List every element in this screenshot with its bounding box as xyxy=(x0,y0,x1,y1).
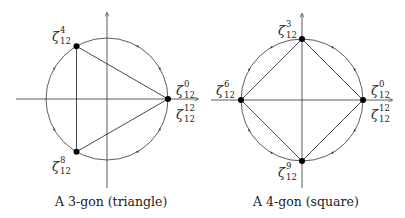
label-zeta-6: ζ612 xyxy=(216,84,223,97)
label-zeta-12: ζ1212 xyxy=(371,108,378,121)
vertex-point xyxy=(299,36,305,42)
label-zeta-8: ζ812 xyxy=(52,160,59,173)
caption-triangle: A 3-gon (triangle) xyxy=(55,194,167,209)
vertex-point xyxy=(74,149,80,155)
zeta-symbol: ζ xyxy=(371,83,378,98)
exponent: 6 xyxy=(224,80,229,89)
exponent: 12 xyxy=(184,104,195,113)
subscript: 12 xyxy=(379,115,390,124)
label-zeta-3: ζ312 xyxy=(278,24,285,37)
label-zeta-0: ζ012 xyxy=(176,84,183,97)
subscript: 12 xyxy=(60,37,71,46)
zeta-symbol: ζ xyxy=(216,83,223,98)
exponent: 0 xyxy=(184,80,189,89)
exponent: 8 xyxy=(60,156,65,165)
subscript: 12 xyxy=(184,115,195,124)
subscript: 12 xyxy=(224,91,235,100)
triangle-diagram xyxy=(16,13,198,188)
vertex-point xyxy=(74,43,80,49)
exponent: 9 xyxy=(286,162,291,171)
exponent: 0 xyxy=(379,80,384,89)
label-zeta-0: ζ012 xyxy=(371,84,378,97)
zeta-symbol: ζ xyxy=(176,107,183,122)
subscript: 12 xyxy=(286,173,297,182)
exponent: 3 xyxy=(286,20,291,29)
label-zeta-12: ζ1212 xyxy=(176,108,183,121)
exponent: 4 xyxy=(60,26,65,35)
zeta-symbol: ζ xyxy=(52,159,59,174)
zeta-symbol: ζ xyxy=(278,165,285,180)
zeta-symbol: ζ xyxy=(52,29,59,44)
vertex-point xyxy=(360,97,366,103)
square-diagram xyxy=(211,14,392,188)
vertex-point xyxy=(165,96,171,102)
zeta-symbol: ζ xyxy=(176,83,183,98)
subscript: 12 xyxy=(379,91,390,100)
subscript: 12 xyxy=(286,31,297,40)
vertex-point xyxy=(238,97,244,103)
zeta-symbol: ζ xyxy=(371,107,378,122)
subscript: 12 xyxy=(60,167,71,176)
exponent: 12 xyxy=(379,104,390,113)
vertex-point xyxy=(299,158,305,164)
caption-square: A 4-gon (square) xyxy=(253,194,359,209)
zeta-symbol: ζ xyxy=(278,23,285,38)
label-zeta-9: ζ912 xyxy=(278,166,285,179)
label-zeta-4: ζ412 xyxy=(52,30,59,43)
subscript: 12 xyxy=(184,91,195,100)
